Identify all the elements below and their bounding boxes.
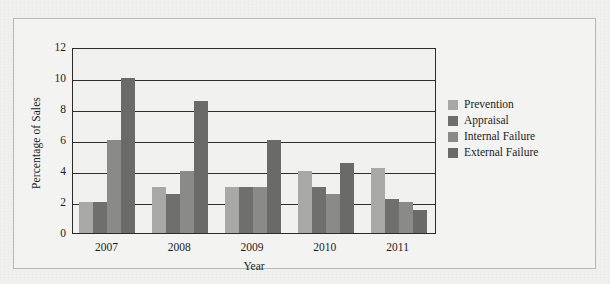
bar-group <box>364 49 437 233</box>
chart-screenshot: Percentage of Sales 024681012 2007200820… <box>0 0 610 284</box>
x-axis-tick-label: 2010 <box>313 241 336 253</box>
bar <box>166 194 180 233</box>
bar <box>93 202 107 233</box>
legend-item: External Failure <box>448 146 538 160</box>
x-axis-tick-label: 2011 <box>386 241 409 253</box>
bar <box>121 78 135 233</box>
bar <box>413 210 427 233</box>
chart-legend: PreventionAppraisalInternal FailureExter… <box>448 98 538 162</box>
legend-item: Prevention <box>448 98 538 112</box>
bar <box>385 199 399 233</box>
x-axis-tick-label: 2008 <box>168 241 191 253</box>
bar <box>79 202 93 233</box>
bar <box>298 171 312 233</box>
bar <box>340 163 354 233</box>
legend-item: Internal Failure <box>448 130 538 144</box>
bar <box>152 187 166 234</box>
bar <box>180 171 194 233</box>
legend-item: Appraisal <box>448 114 538 128</box>
y-axis-tick-label: 12 <box>40 42 66 54</box>
x-axis-tick-label: 2007 <box>95 241 118 253</box>
x-axis-tick-label: 2009 <box>241 241 264 253</box>
y-axis-tick-label: 0 <box>40 228 66 240</box>
bars-layer <box>73 49 435 233</box>
bar <box>225 187 239 234</box>
legend-swatch-icon <box>448 116 458 126</box>
bar <box>326 194 340 233</box>
bar-group <box>146 49 219 233</box>
bar-group <box>73 49 146 233</box>
bar <box>399 202 413 233</box>
x-axis-title: Year <box>72 260 436 272</box>
legend-swatch-icon <box>448 148 458 158</box>
bar-group <box>291 49 364 233</box>
bar-group <box>219 49 292 233</box>
legend-swatch-icon <box>448 132 458 142</box>
y-axis-tick-label: 2 <box>40 197 66 209</box>
y-axis-tick-label: 8 <box>40 104 66 116</box>
plot-area <box>72 48 436 234</box>
legend-label: Internal Failure <box>464 131 535 143</box>
bar <box>371 168 385 233</box>
legend-label: Prevention <box>464 99 514 111</box>
bar <box>253 187 267 234</box>
bar <box>194 101 208 233</box>
y-axis-tick-label: 10 <box>40 73 66 85</box>
legend-swatch-icon <box>448 100 458 110</box>
legend-label: Appraisal <box>464 115 509 127</box>
bar <box>312 187 326 234</box>
bar <box>107 140 121 233</box>
y-axis-tick-label: 4 <box>40 166 66 178</box>
y-axis-tick-label: 6 <box>40 135 66 147</box>
bar <box>239 187 253 234</box>
legend-label: External Failure <box>464 147 538 159</box>
bar <box>267 140 281 233</box>
